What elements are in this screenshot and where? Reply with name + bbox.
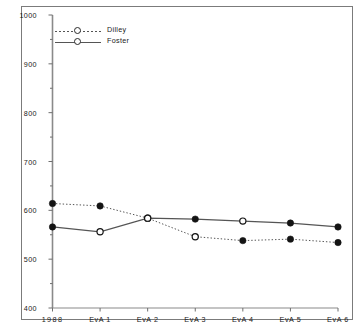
data-point-dilley xyxy=(335,239,341,245)
y-axis-tick-label: 800 xyxy=(3,108,37,117)
data-point-dilley xyxy=(97,203,103,209)
x-axis-tick-label: EvA 6 xyxy=(310,315,361,324)
legend-marker-circle xyxy=(74,27,81,34)
data-point-foster xyxy=(145,215,151,221)
chart-figure: Dilley Foster 40050060070080090010001988… xyxy=(0,0,361,335)
data-point-dilley xyxy=(240,237,246,243)
data-point-dilley xyxy=(192,234,198,240)
legend-label-dilley: Dilley xyxy=(107,25,126,34)
legend-entry-foster: Foster xyxy=(55,37,155,48)
data-point-dilley xyxy=(287,236,293,242)
data-point-dilley xyxy=(49,200,55,206)
y-axis-tick-label: 700 xyxy=(3,157,37,166)
legend-entry-dilley: Dilley xyxy=(55,26,155,37)
data-point-foster xyxy=(240,218,246,224)
y-axis-tick-label: 500 xyxy=(3,255,37,264)
data-point-foster xyxy=(287,220,293,226)
data-point-foster xyxy=(49,224,55,230)
legend-label-foster: Foster xyxy=(107,36,129,45)
legend-marker-circle xyxy=(74,38,81,45)
chart-legend: Dilley Foster xyxy=(55,26,155,52)
data-point-foster xyxy=(192,216,198,222)
y-axis-tick-label: 400 xyxy=(3,304,37,313)
y-axis-tick-label: 900 xyxy=(3,59,37,68)
y-axis-tick-label: 600 xyxy=(3,206,37,215)
data-point-foster xyxy=(97,229,103,235)
y-axis-tick-label: 1000 xyxy=(3,11,37,20)
data-point-foster xyxy=(335,224,341,230)
